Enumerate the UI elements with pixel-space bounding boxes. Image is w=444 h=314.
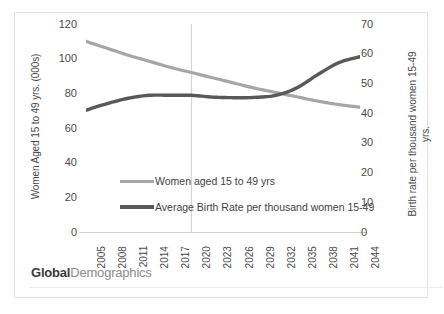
x-axis-tick-label: 2041 — [350, 246, 360, 268]
right-axis-title: Birth rate per thousand women 15-49 yrs. — [393, 21, 429, 246]
x-axis-tick-label: 2023 — [224, 246, 234, 268]
x-axis-tick-label: 2014 — [160, 246, 170, 268]
watermark-bold: Global — [31, 265, 70, 280]
chart-frame: Women Aged 15 to 49 yrs. (000s) 02040608… — [14, 12, 428, 298]
axis-tick-label: 20 — [51, 192, 77, 203]
x-axis-tick-label: 2017 — [181, 246, 191, 268]
watermark: GlobalDemographics — [31, 265, 152, 280]
x-axis-tick-label: 2038 — [329, 246, 339, 268]
axis-tick-label: 100 — [51, 53, 77, 64]
axis-tick-label: 120 — [51, 19, 77, 30]
legend-swatch-icon — [120, 180, 154, 183]
axis-tick-label: 30 — [361, 137, 387, 148]
legend-item-label: Women aged 15 to 49 yrs — [155, 175, 275, 187]
axis-tick-label: 50 — [361, 78, 387, 89]
x-axis-tick-label: 2026 — [245, 246, 255, 268]
axis-tick-label: 0 — [51, 227, 77, 238]
axis-tick-label: 70 — [361, 19, 387, 30]
chart-legend: Women aged 15 to 49 yrs Average Birth Ra… — [120, 168, 385, 220]
x-axis-tick-label: 2029 — [266, 246, 276, 268]
axis-tick-label: 0 — [361, 227, 387, 238]
right-axis-title-line2: yrs. — [420, 29, 431, 239]
watermark-divider — [29, 287, 443, 288]
right-axis-title-line1: Birth rate per thousand women 15-49 — [407, 29, 418, 239]
axis-tick-label: 60 — [361, 48, 387, 59]
right-axis-tick-labels: 010203040506070 — [361, 13, 395, 297]
axis-tick-label: 40 — [361, 108, 387, 119]
legend-swatch-icon — [120, 205, 154, 209]
left-axis-tick-labels: 020406080100120 — [39, 13, 77, 297]
watermark-light: Demographics — [70, 265, 151, 280]
legend-item-women-aged: Women aged 15 to 49 yrs — [120, 168, 385, 194]
axis-tick-label: 40 — [51, 157, 77, 168]
legend-item-birth-rate: Average Birth Rate per thousand women 15… — [120, 194, 385, 220]
legend-item-label: Average Birth Rate per thousand women 15… — [155, 201, 374, 213]
x-axis-tick-label: 2032 — [287, 246, 297, 268]
x-axis-line — [79, 232, 367, 233]
axis-tick-label: 60 — [51, 123, 77, 134]
x-axis-tick-label: 2035 — [308, 246, 318, 268]
axis-tick-label: 80 — [51, 88, 77, 99]
x-axis-tick-label: 2020 — [203, 246, 213, 268]
